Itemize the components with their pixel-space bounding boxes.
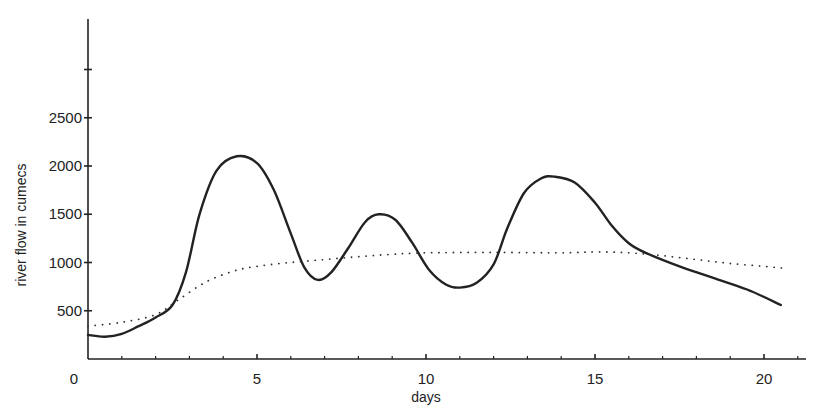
y-tick-label: 2000: [49, 157, 82, 174]
x-tick-label: 10: [418, 370, 435, 387]
x-ticks: 5101520: [122, 354, 798, 387]
axes: [88, 19, 806, 359]
y-tick-label: 1500: [49, 205, 82, 222]
x-tick-label: 20: [756, 370, 773, 387]
origin-label: 0: [70, 370, 78, 387]
x-tick-label: 15: [587, 370, 604, 387]
y-tick-label: 500: [57, 302, 82, 319]
river-flow-solid-line: [88, 156, 781, 337]
y-tick-label: 2500: [49, 109, 82, 126]
y-axis-label: river flow in cumecs: [13, 164, 29, 287]
average-flow-dotted-line: [88, 252, 784, 326]
y-tick-label: 1000: [49, 254, 82, 271]
series-layer: [88, 156, 784, 337]
y-ticks: 5001000150020002500: [49, 70, 92, 319]
x-tick-label: 5: [253, 370, 261, 387]
x-axis-label: days: [411, 389, 441, 405]
river-flow-chart: 5001000150020002500 5101520 0 days river…: [0, 0, 820, 415]
